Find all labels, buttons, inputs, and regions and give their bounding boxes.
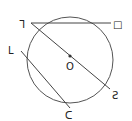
- chord-lower: [21, 51, 70, 108]
- geometry-diagram: O ᒣ □ ᒪ Ƨ ᑕ: [0, 0, 132, 121]
- point-label-5: ᑕ: [65, 110, 72, 121]
- point-label-1: ᒣ: [19, 19, 25, 30]
- point-label-4: Ƨ: [112, 90, 118, 101]
- point-label-2: □: [113, 19, 122, 30]
- point-label-3: ᒪ: [8, 45, 14, 56]
- center-label: O: [66, 61, 74, 72]
- center-point: [68, 54, 71, 57]
